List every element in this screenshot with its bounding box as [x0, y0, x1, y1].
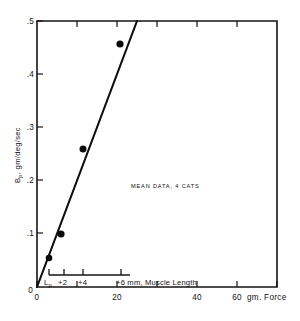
secondary-ticklabel-lp: Lp — [44, 278, 52, 288]
data-points — [46, 40, 124, 261]
y-ticklabel-5: .5 — [27, 17, 34, 26]
data-point — [116, 40, 123, 47]
secondary-axis-ticklabels: Lp +2 +4 +6 mm, Muscle Length — [44, 278, 197, 288]
y-axis-ticks — [37, 21, 43, 233]
x-axis-title-text: gm. Force — [247, 293, 287, 302]
y-axis-title-rest: , gm/deg/sec — [13, 127, 22, 174]
y-axis-ticklabels: .5 .4 .3 .2 .1 0 — [27, 17, 34, 295]
x-axis-ticklabels: 0 20 40 60 — [35, 293, 242, 302]
data-point — [80, 146, 87, 153]
secondary-ticklabel-plus4: +4 — [78, 278, 87, 287]
plot-frame — [37, 21, 277, 287]
y-ticklabel-4: .4 — [27, 70, 34, 79]
secondary-ticklabel-lp-subscript: p — [48, 282, 51, 288]
annotation-text: MEAN DATA, 4 CATS — [131, 183, 200, 189]
chart-annotation: MEAN DATA, 4 CATS — [131, 183, 200, 189]
x-ticklabel-0: 0 — [35, 293, 40, 302]
chart-figure: .5 .4 .3 .2 .1 0 Bp, gm/deg/sec — [0, 0, 300, 321]
chart-svg: .5 .4 .3 .2 .1 0 Bp, gm/deg/sec — [0, 0, 300, 321]
data-point — [57, 230, 64, 237]
x-ticklabel-40: 40 — [192, 293, 202, 302]
top-axis-ticks — [77, 21, 237, 27]
y-ticklabel-3: .3 — [27, 123, 34, 132]
y-ticklabel-1: .1 — [27, 229, 34, 238]
y-ticklabel-2: .2 — [27, 176, 34, 185]
y-ticklabel-0: 0 — [28, 286, 33, 295]
y-axis-title: Bp, gm/deg/sec — [13, 127, 23, 183]
fit-line — [37, 21, 137, 287]
secondary-ticklabel-plus2: +2 — [58, 278, 67, 287]
x-axis-title: gm. Force — [247, 293, 287, 302]
y-axis-title-text: Bp, gm/deg/sec — [13, 127, 23, 183]
secondary-muscle-length-axis — [49, 269, 130, 275]
secondary-axis-title: +6 mm, Muscle Length — [116, 278, 197, 287]
x-ticklabel-60: 60 — [232, 293, 242, 302]
x-ticklabel-20: 20 — [112, 293, 122, 302]
data-point — [46, 255, 53, 262]
